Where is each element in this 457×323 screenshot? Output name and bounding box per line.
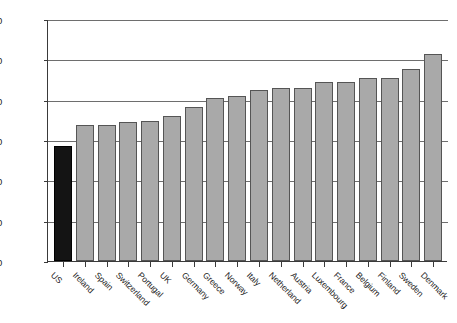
x-axis-tick-mark — [172, 262, 173, 267]
bar-france[interactable] — [337, 82, 355, 261]
gridline — [48, 60, 448, 61]
x-axis-tick-mark — [85, 262, 86, 267]
bar-ireland[interactable] — [76, 125, 94, 261]
bar-switzerland[interactable] — [119, 122, 137, 261]
x-axis-tick-mark — [107, 262, 108, 267]
bar-austria[interactable] — [294, 88, 312, 261]
bar-norway[interactable] — [228, 96, 246, 261]
y-axis-tick-mark — [44, 181, 48, 182]
bar-luxembourg[interactable] — [315, 82, 333, 261]
y-axis-tick-mark — [44, 20, 48, 21]
bar-netherland[interactable] — [272, 88, 290, 261]
x-axis-tick-mark — [194, 262, 195, 267]
bar-finland[interactable] — [381, 78, 399, 261]
x-axis-tick-mark — [433, 262, 434, 267]
bar-us[interactable] — [54, 146, 72, 261]
y-axis-tick-mark — [44, 101, 48, 102]
bar-denmark[interactable] — [424, 54, 442, 261]
x-axis-tick-mark — [368, 262, 369, 267]
bar-greece[interactable] — [206, 98, 224, 261]
x-axis-tick-mark — [390, 262, 391, 267]
y-axis-tick-mark — [44, 262, 48, 263]
x-axis-tick-mark — [411, 262, 412, 267]
y-axis-tick-mark — [44, 141, 48, 142]
x-axis-tick-label-us: US — [49, 270, 64, 285]
gridline — [48, 20, 448, 21]
bar-portugal[interactable] — [141, 121, 159, 261]
y-axis-tick-mark — [44, 222, 48, 223]
x-axis-tick-label-ireland: Ireland — [71, 270, 96, 295]
y-axis-tick-mark — [44, 60, 48, 61]
x-axis-tick-mark — [303, 262, 304, 267]
x-axis-tick-mark — [259, 262, 260, 267]
x-axis-tick-label-denmark: Denmark — [419, 270, 450, 301]
y-axis-tick-label: 0 — [0, 257, 2, 268]
x-axis-tick-mark — [324, 262, 325, 267]
x-axis-tick-mark — [281, 262, 282, 267]
bar-chart: 0102030405060USIrelandSpainSwitzerlandPo… — [0, 0, 457, 323]
bar-germany[interactable] — [185, 107, 203, 261]
x-axis-tick-mark — [237, 262, 238, 267]
bar-italy[interactable] — [250, 90, 268, 261]
x-axis-tick-label-italy: Italy — [245, 270, 263, 288]
y-axis-tick-label: 40 — [0, 95, 2, 106]
x-axis-tick-mark — [63, 262, 64, 267]
bar-uk[interactable] — [163, 116, 181, 261]
plot-area — [47, 20, 447, 262]
y-axis-tick-label: 60 — [0, 15, 2, 26]
bar-belgium[interactable] — [359, 78, 377, 261]
y-axis-tick-label: 10 — [0, 216, 2, 227]
x-axis-tick-mark — [150, 262, 151, 267]
x-axis-tick-mark — [215, 262, 216, 267]
bar-spain[interactable] — [98, 125, 116, 261]
x-axis-tick-mark — [128, 262, 129, 267]
y-axis-tick-label: 50 — [0, 55, 2, 66]
x-axis-tick-mark — [346, 262, 347, 267]
y-axis-tick-label: 20 — [0, 176, 2, 187]
y-axis-tick-label: 30 — [0, 136, 2, 147]
bar-sweden[interactable] — [402, 69, 420, 261]
x-axis-tick-label-uk: UK — [158, 270, 173, 285]
